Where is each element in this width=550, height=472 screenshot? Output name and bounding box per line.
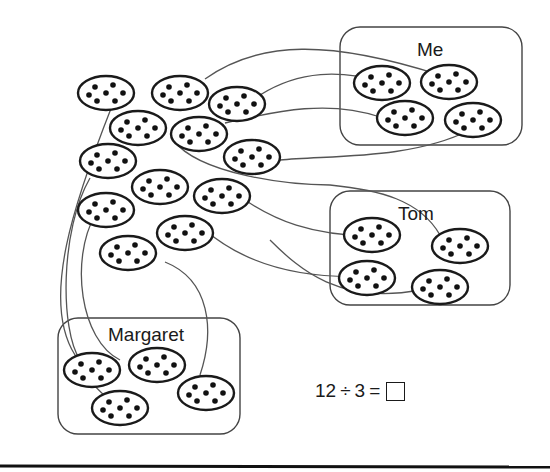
cookie [194,179,250,213]
cookie [421,65,477,99]
bottom-rule [0,466,550,467]
cookie-division-diagram: Me Tom Margaret [0,0,550,472]
cookie [78,76,134,110]
cookie [129,348,185,382]
group-label-me: Me [417,39,443,60]
cookie [339,261,395,295]
cookie [209,87,265,121]
cookie [171,117,227,151]
cookie [412,270,468,304]
divisor: 3 [355,380,366,402]
me-cookies [354,65,501,137]
cookie [344,218,400,252]
division-equation: 12 ÷ 3 = [315,380,405,402]
cookie [432,229,488,263]
cookie [80,144,136,178]
margaret-cookies [64,348,234,425]
cookie [64,353,120,387]
answer-box[interactable] [386,382,405,401]
cookie [157,216,213,250]
cookie [100,236,156,270]
equals-sign: = [369,380,380,402]
cookie [78,193,134,227]
unassigned-cookies [78,76,280,270]
cookie [110,111,166,145]
cookie [354,66,410,100]
dividend: 12 [315,380,336,402]
cookie [132,170,188,204]
group-label-tom: Tom [398,203,434,224]
group-label-margaret: Margaret [108,324,185,345]
cookie [377,101,433,135]
cookie [224,140,280,174]
tom-cookies [339,218,488,304]
cookie [92,391,148,425]
cookie [152,76,208,110]
division-operator: ÷ [340,380,350,402]
cookie [178,376,234,410]
cookie [445,103,501,137]
